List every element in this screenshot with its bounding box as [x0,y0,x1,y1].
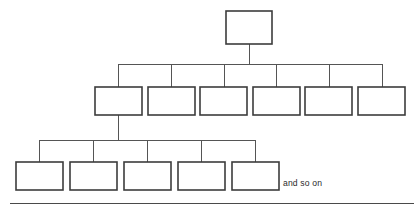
tree-node-l3-5[interactable] [232,162,279,190]
level2-drop-connectors [119,64,383,87]
tree-node-l3-1[interactable] [16,162,63,190]
tree-node-l2-6[interactable] [358,87,405,115]
level3-drop-connectors [40,140,256,162]
tree-node-l2-5[interactable] [305,87,352,115]
level3-node-group [16,162,279,190]
tree-node-l3-4[interactable] [178,162,225,190]
hierarchy-tree-diagram: and so on [0,0,420,211]
tree-node-root[interactable] [226,11,272,44]
tree-node-l3-2[interactable] [70,162,117,190]
tree-node-l2-3[interactable] [200,87,247,115]
tree-node-l2-2[interactable] [148,87,195,115]
continuation-caption: and so on [283,178,322,188]
level1-node-group [226,11,272,44]
tree-node-l3-3[interactable] [124,162,171,190]
tree-node-l2-1[interactable] [95,87,142,115]
level2-node-group [95,87,405,115]
tree-node-l2-4[interactable] [253,87,300,115]
diagram-canvas: and so on [0,0,420,211]
